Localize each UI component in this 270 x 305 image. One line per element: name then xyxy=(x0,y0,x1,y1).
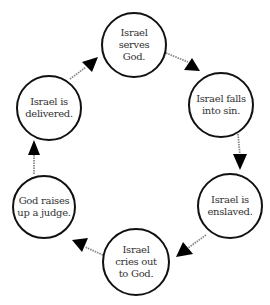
node-label: Israel is enslaved. xyxy=(207,194,252,218)
node-label: Israel is delivered. xyxy=(25,96,73,120)
arrowhead-icon xyxy=(184,58,200,71)
node-label: Israel cries out to God. xyxy=(115,244,157,280)
edge-delivered-to-serves xyxy=(70,57,98,79)
edge-judge-to-delivered xyxy=(28,140,40,174)
edge-enslaved-to-cries xyxy=(176,235,206,257)
node-label: God raises up a judge. xyxy=(17,195,70,219)
node-label: Israel serves God. xyxy=(119,27,150,63)
node-israel-serves-god: Israel serves God. xyxy=(101,12,167,78)
node-israel-falls-into-sin: Israel falls into sin. xyxy=(188,72,254,138)
node-israel-is-enslaved: Israel is enslaved. xyxy=(197,173,263,239)
cycle-diagram: Israel serves God. Israel falls into sin… xyxy=(0,0,270,305)
arrowhead-icon xyxy=(176,242,193,257)
arrowhead-icon xyxy=(72,238,88,252)
arrowhead-icon xyxy=(82,57,98,72)
edge-falls-to-enslaved xyxy=(233,134,247,170)
edge-serves-to-falls xyxy=(166,53,200,71)
node-god-raises-judge: God raises up a judge. xyxy=(12,175,76,239)
arrowhead-icon xyxy=(28,140,40,155)
node-israel-cries-out: Israel cries out to God. xyxy=(102,228,170,296)
arrowhead-icon xyxy=(233,154,247,170)
node-label: Israel falls into sin. xyxy=(196,93,246,117)
edge-cries-to-judge xyxy=(72,238,103,255)
node-israel-is-delivered: Israel is delivered. xyxy=(16,75,82,141)
